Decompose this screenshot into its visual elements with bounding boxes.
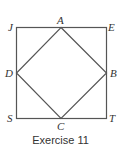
label-E: E [107, 21, 115, 33]
label-C: C [57, 120, 65, 132]
label-D: D [4, 67, 13, 79]
geometry-figure: J A E D B S C T Exercise 11 [0, 0, 121, 151]
figure-caption: Exercise 11 [32, 134, 89, 146]
label-B: B [110, 67, 117, 79]
label-J: J [8, 21, 14, 33]
outer-square-JETS [17, 28, 107, 119]
inner-square-ABCD [17, 28, 107, 119]
label-T: T [109, 112, 116, 124]
label-A: A [56, 14, 64, 26]
label-S: S [7, 112, 13, 124]
